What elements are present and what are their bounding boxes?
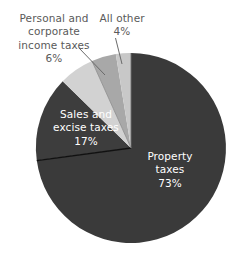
pie-label-all-other: All other 4% (84, 12, 160, 39)
pie-chart: Personal and corporate income taxes 6% A… (0, 0, 235, 265)
pie-label-sales-and-excise-taxes: Sales and excise taxes 17% (42, 108, 130, 148)
pie-label-property-taxes: Property taxes 73% (131, 150, 209, 190)
